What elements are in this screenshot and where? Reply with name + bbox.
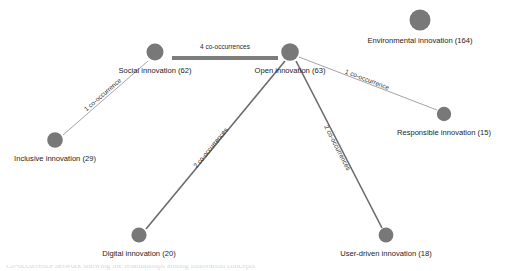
- node-label-environmental: Environmental innovation (164): [367, 36, 473, 45]
- node-label-userdriven: User-driven innovation (18): [340, 249, 432, 258]
- network-graph-canvas: 4 co-occurrences1 co-occurrence1 co-occu…: [0, 0, 509, 271]
- node-labels-group: Social innovation (62)Open innovation (6…: [14, 36, 491, 258]
- figure-caption: Co-occurrence network showing the relati…: [6, 265, 255, 270]
- node-label-social: Social innovation (62): [118, 66, 191, 75]
- node-social[interactable]: [147, 44, 164, 61]
- edge-label-open-digital: 2 co-occurrences: [192, 125, 230, 168]
- node-digital[interactable]: [131, 227, 146, 242]
- figure-caption-strip: Co-occurrence network showing the relati…: [0, 265, 509, 271]
- node-inclusive[interactable]: [47, 132, 63, 148]
- edge-labels-group: 4 co-occurrences1 co-occurrence1 co-occu…: [83, 43, 391, 172]
- node-responsible[interactable]: [437, 107, 451, 121]
- node-label-digital: Digital innovation (20): [102, 249, 176, 258]
- node-environmental[interactable]: [410, 10, 431, 31]
- edge-label-open-userdriven: 2 co-occurrences: [323, 124, 352, 172]
- edge-label-open-responsible: 1 co-occurrence: [344, 68, 390, 91]
- edge-open-responsible[interactable]: [299, 57, 437, 110]
- node-userdriven[interactable]: [379, 228, 394, 243]
- node-label-responsible: Responsible innovation (15): [397, 128, 492, 137]
- node-label-inclusive: Inclusive innovation (29): [14, 154, 96, 163]
- node-label-open: Open innovation (63): [255, 66, 326, 75]
- edge-label-social-open: 4 co-occurrences: [200, 43, 251, 50]
- node-open[interactable]: [281, 43, 299, 61]
- edge-label-inclusive-social: 1 co-occurrence: [83, 76, 123, 112]
- co-occurrence-network-figure: 4 co-occurrences1 co-occurrence1 co-occu…: [0, 0, 509, 271]
